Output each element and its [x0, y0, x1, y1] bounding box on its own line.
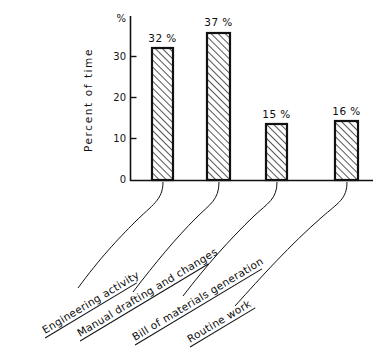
category-labels-group: Engineering activity Manual drafting and… — [38, 245, 266, 347]
y-axis-ticks: 30 20 10 0 — [113, 51, 136, 185]
bar-value-label-1: 32 % — [148, 32, 176, 44]
bar-rect-1[interactable] — [152, 48, 173, 180]
bar-manual-drafting-and-changes[interactable]: 37 % — [204, 16, 232, 180]
bar-rect-4[interactable] — [335, 121, 358, 180]
bars-group: 32 % 37 % 15 % 16 % — [148, 16, 360, 180]
y-axis-unit-label: % — [116, 13, 126, 24]
y-axis: % 30 20 10 0 Percent of time — [82, 13, 137, 185]
y-tick-label-10: 10 — [113, 133, 126, 144]
bar-value-label-2: 37 % — [204, 16, 232, 28]
bar-chart-figure: % 30 20 10 0 Percent of time 32 % — [0, 0, 381, 353]
bar-value-label-3: 15 % — [262, 108, 290, 120]
y-tick-label-30: 30 — [113, 51, 126, 62]
bar-engineering-activity[interactable]: 32 % — [148, 32, 176, 180]
bar-rect-3[interactable] — [266, 124, 287, 180]
chart-svg: % 30 20 10 0 Percent of time 32 % — [0, 0, 381, 353]
leader-line-4 — [235, 182, 347, 306]
bar-value-label-4: 16 % — [332, 105, 360, 117]
y-tick-label-20: 20 — [113, 92, 126, 103]
leader-line-1 — [78, 182, 163, 288]
bar-routine-work[interactable]: 16 % — [332, 105, 360, 180]
bar-rect-2[interactable] — [207, 33, 230, 180]
y-tick-label-0: 0 — [120, 174, 126, 185]
y-axis-title: Percent of time — [82, 48, 94, 152]
bar-bill-of-materials-generation[interactable]: 15 % — [262, 108, 290, 180]
